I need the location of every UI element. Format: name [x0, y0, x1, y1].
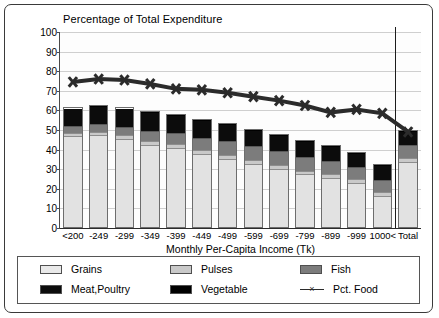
x-axis-tick-label: -449: [189, 230, 215, 241]
legend-item[interactable]: Fish: [300, 263, 351, 275]
y-axis-tick-label: 60: [31, 110, 57, 111]
plot-wrapper: 0102030405060708090100 <200-249-299-349-…: [26, 27, 425, 229]
x-axis-tick-label: -599: [241, 230, 267, 241]
chart-frame: Percentage of Total Expenditure 01020304…: [4, 4, 433, 313]
legend-swatch-veg: [170, 285, 192, 294]
legend-item[interactable]: Grains: [40, 263, 102, 275]
legend-item[interactable]: Meat,Poultry: [40, 283, 130, 295]
pct-food-line-series: [60, 32, 421, 228]
legend-label: Pulses: [201, 263, 233, 275]
y-axis-tick-label: 70: [31, 90, 57, 91]
legend-swatch-pulses: [170, 265, 192, 274]
x-axis-tick-label: -349: [137, 230, 163, 241]
x-axis-tick-label: -499: [215, 230, 241, 241]
legend-label: Pct. Food: [333, 283, 378, 295]
plot-area: 0102030405060708090100 <200-249-299-349-…: [59, 32, 421, 229]
chart-title: Percentage of Total Expenditure: [63, 13, 222, 25]
x-axis-tick-label: -699: [266, 230, 292, 241]
x-axis-tick-label: -399: [163, 230, 189, 241]
x-axis-tick-label: -249: [86, 230, 112, 241]
legend-label: Vegetable: [201, 283, 248, 295]
legend-line-marker-icon: [300, 285, 324, 294]
legend-label: Meat,Poultry: [71, 283, 130, 295]
x-axis-tick-label: Total: [395, 230, 421, 241]
y-axis-tick-label: 90: [31, 51, 57, 52]
chart-legend: GrainsPulsesFishMeat,PoultryVegetablePct…: [17, 256, 420, 304]
y-axis-tick-label: 80: [31, 71, 57, 72]
legend-swatch-grains: [40, 265, 62, 274]
x-axis-tick-label: -299: [112, 230, 138, 241]
y-axis-tick-label: 100: [31, 32, 57, 33]
x-axis-labels: <200-249-299-349-399-449-499-599-699-799…: [60, 228, 421, 244]
x-axis-title: Monthly Per-Capita Income (Tk): [60, 243, 421, 255]
x-axis-tick-label: 1000<: [369, 230, 395, 241]
legend-label: Fish: [331, 263, 351, 275]
x-axis-tick-label: -799: [292, 230, 318, 241]
y-axis-tick-label: 0: [31, 228, 57, 229]
x-axis-tick-label: -899: [318, 230, 344, 241]
x-axis-tick-label: -999: [344, 230, 370, 241]
legend-swatch-meat: [40, 285, 62, 294]
legend-item[interactable]: Vegetable: [170, 283, 248, 295]
pct-food-line: [73, 79, 408, 132]
legend-item[interactable]: Pulses: [170, 263, 233, 275]
legend-swatch-fish: [300, 265, 322, 274]
x-axis-tick-label: <200: [60, 230, 86, 241]
y-axis-tick-label: 30: [31, 169, 57, 170]
y-axis-tick-label: 20: [31, 188, 57, 189]
legend-label: Grains: [71, 263, 102, 275]
y-axis-tick-label: 40: [31, 149, 57, 150]
y-axis-tick-label: 10: [31, 208, 57, 209]
y-axis-tick-label: 50: [31, 130, 57, 131]
legend-item[interactable]: Pct. Food: [300, 283, 378, 295]
